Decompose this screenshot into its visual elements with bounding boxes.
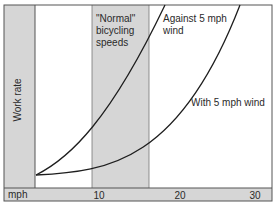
against-wind-label-line-2: wind (162, 25, 184, 36)
band-label-line-2: bicycling (96, 25, 134, 36)
x-tick-10: 10 (93, 190, 105, 201)
x-axis-bar (4, 188, 272, 201)
band-label-line-1: "Normal" (96, 13, 136, 24)
band-label-line-3: speeds (96, 37, 128, 48)
with-wind-label: With 5 mph wind (191, 97, 265, 108)
x-tick-30: 30 (249, 190, 261, 201)
y-axis-label: Work rate (12, 78, 23, 122)
x-tick-20: 20 (174, 190, 186, 201)
x-axis-label: mph (8, 189, 27, 200)
work-rate-chart: Work rate "Normal" bicycling speeds Agai… (0, 0, 278, 207)
against-wind-label-line-1: Against 5 mph (163, 13, 227, 24)
